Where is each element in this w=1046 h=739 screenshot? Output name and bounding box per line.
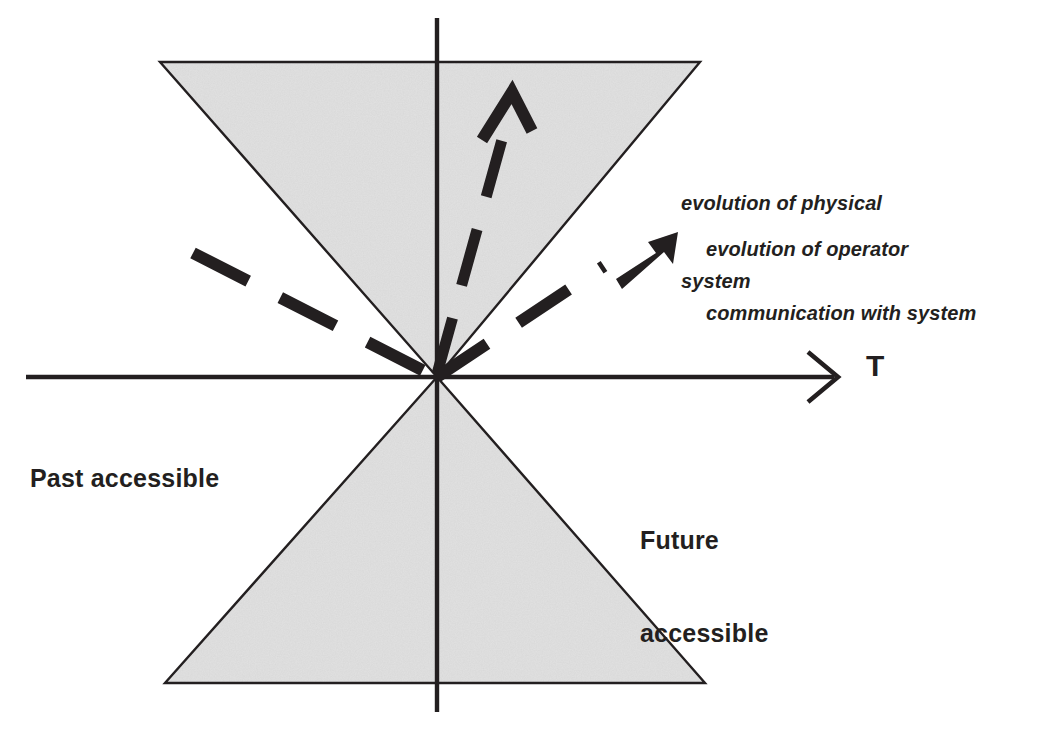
evolution-of-physical-system-label-line2: system — [681, 268, 882, 294]
future-accessible-label-line1: Future — [640, 525, 769, 556]
evolution-of-operator-label: evolution of operator — [706, 236, 908, 262]
communication-with-system-label: communication with system — [706, 300, 976, 326]
future-accessible-label: Future accessible — [640, 463, 769, 711]
evolution-of-physical-system-label-line1: evolution of physical — [681, 190, 882, 216]
t-axis-label: T — [866, 349, 884, 383]
lightcone-figure: T Past accessible Future accessible evol… — [0, 0, 1046, 739]
lightcone-diagram-svg — [0, 0, 1046, 739]
past-accessible-label: Past accessible — [30, 463, 219, 494]
future-accessible-label-line2: accessible — [640, 618, 769, 649]
communication-arrow — [616, 232, 678, 289]
